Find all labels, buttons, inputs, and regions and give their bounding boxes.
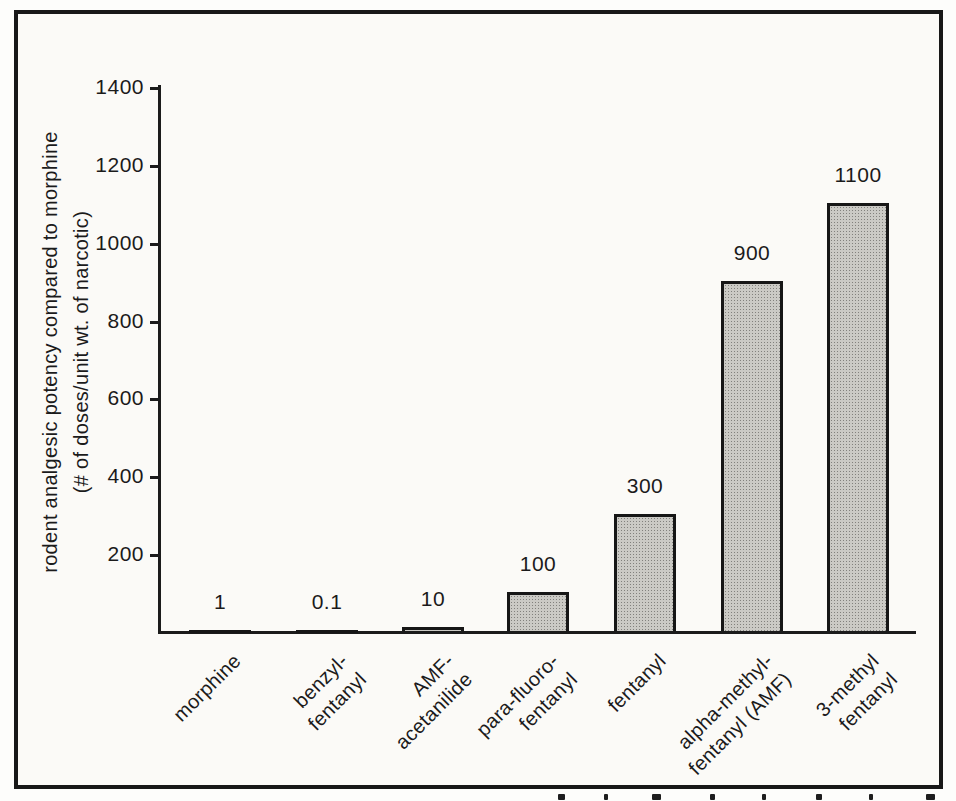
y-tick-label: 800 <box>64 309 144 333</box>
y-tick-mark <box>150 321 160 324</box>
y-tick-mark <box>150 165 160 168</box>
cropped-caption-glyph <box>926 794 935 800</box>
x-axis-line <box>158 631 916 634</box>
y-axis-title-line2: (# of doses/unit wt. of narcotic) <box>66 131 97 573</box>
bar-chart: rodent analgesic potency compared to mor… <box>0 0 956 801</box>
cropped-caption-glyph <box>604 794 608 800</box>
bar-value-label: 1 <box>160 590 280 616</box>
y-tick-label: 1400 <box>64 75 144 99</box>
bar-para-fluoro-fentanyl <box>507 592 569 631</box>
y-tick-mark <box>150 243 160 246</box>
y-tick-mark <box>150 554 160 557</box>
cropped-caption-glyph <box>710 794 715 800</box>
bar-value-label: 0.1 <box>267 590 387 616</box>
cropped-caption-glyph <box>558 794 565 800</box>
bar-benzyl-fentanyl <box>296 630 358 633</box>
y-tick-label: 600 <box>64 386 144 410</box>
cropped-caption-glyph <box>652 794 661 800</box>
bar-value-label: 10 <box>373 587 493 613</box>
y-tick-label: 1200 <box>64 153 144 177</box>
y-axis-title-text: rodent analgesic potency compared to mor… <box>35 131 97 573</box>
cropped-caption-glyph <box>816 794 822 800</box>
bar-3-methyl fentanyl <box>827 203 889 631</box>
bar-value-label: 100 <box>478 552 598 578</box>
y-tick-label: 200 <box>64 542 144 566</box>
bar-alpha-methyl-fentanyl (AMF) <box>721 281 783 631</box>
bar-morphine <box>189 630 251 633</box>
bar-value-label: 300 <box>585 474 705 500</box>
bar-value-label: 1100 <box>798 163 918 189</box>
y-tick-label: 400 <box>64 464 144 488</box>
bar-value-label: 900 <box>692 241 812 267</box>
cropped-caption-glyph <box>869 794 873 800</box>
y-tick-mark <box>150 476 160 479</box>
cropped-caption-glyph <box>762 794 766 800</box>
bar-fentanyl <box>614 514 676 631</box>
y-tick-mark <box>150 398 160 401</box>
y-tick-label: 1000 <box>64 231 144 255</box>
y-tick-mark <box>150 87 160 90</box>
y-axis-title-line1: rodent analgesic potency compared to mor… <box>35 131 66 573</box>
bar-AMF-acetanilide <box>402 627 464 631</box>
